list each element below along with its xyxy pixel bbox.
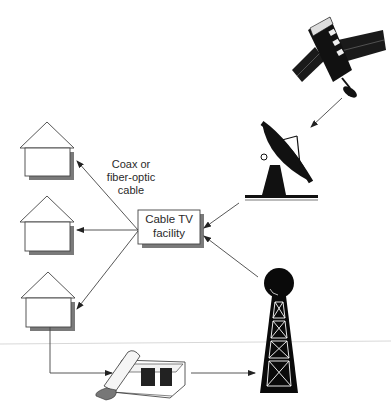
phone-keypad-left — [141, 368, 155, 386]
telephone-icon — [96, 351, 185, 400]
dish-platform — [245, 195, 318, 198]
tower-ball — [264, 268, 294, 298]
coax-label-line-3: cable — [98, 184, 164, 197]
house-roof — [20, 122, 74, 148]
coax-cable-label: Coax or fiber-optic cable — [98, 158, 164, 197]
house-body — [26, 298, 71, 327]
phone-keypad-right — [160, 368, 172, 386]
satellite-icon — [292, 17, 386, 100]
facility-label-line-2: facility — [138, 226, 200, 240]
phone-cord — [96, 388, 117, 400]
separator-line — [0, 341, 391, 344]
satellite-dish-icon — [245, 123, 318, 200]
house-roof — [20, 196, 74, 222]
house-roof — [21, 272, 75, 298]
diagram-canvas: Coax or fiber-optic cable Cable TV facil… — [0, 0, 391, 413]
arrow-facility-to-house-3 — [77, 231, 138, 309]
dish-pedestal — [262, 165, 286, 195]
facility-label-line-1: Cable TV — [138, 212, 200, 226]
broadcast-tower-icon — [260, 268, 298, 393]
house-body — [25, 148, 70, 176]
facility-label: Cable TV facility — [138, 212, 200, 240]
coax-label-line-1: Coax or — [98, 158, 164, 171]
diagram-svg — [0, 0, 391, 413]
arrow-satellite-to-dish — [311, 98, 342, 127]
house-3 — [21, 272, 75, 331]
tower-frame — [260, 296, 298, 393]
arrow-tower-to-facility — [204, 236, 258, 277]
house-1 — [20, 122, 74, 180]
arrow-dish-to-facility — [204, 203, 239, 228]
arrow-house-to-phone — [50, 327, 112, 373]
house-2 — [20, 196, 74, 255]
coax-label-line-2: fiber-optic — [98, 171, 164, 184]
house-body — [25, 222, 70, 251]
